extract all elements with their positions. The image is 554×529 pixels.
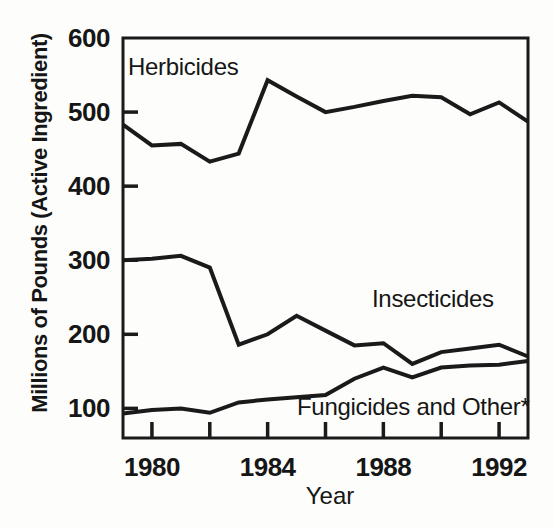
plot-border — [123, 38, 528, 438]
x-tick-label-1988: 1988 — [338, 454, 428, 480]
x-axis-ticks — [152, 422, 499, 438]
y-tick-label-500: 500 — [50, 99, 110, 125]
x-tick-label-1984: 1984 — [223, 454, 313, 480]
herbicides-line — [123, 80, 528, 162]
y-tick-label-100: 100 — [50, 395, 110, 421]
herbicides-series-label: Herbicides — [128, 54, 238, 80]
y-tick-label-600: 600 — [50, 25, 110, 51]
y-axis-title: Millions of Pounds (Active Ingredient) — [28, 23, 52, 423]
x-tick-label-1980: 1980 — [107, 454, 197, 480]
x-tick-label-1992: 1992 — [454, 454, 544, 480]
y-tick-label-400: 400 — [50, 173, 110, 199]
pesticide-usage-chart: Millions of Pounds (Active Ingredient) Y… — [0, 0, 554, 529]
fungicides-series-label: Fungicides and Other* — [297, 394, 530, 420]
y-tick-label-300: 300 — [50, 247, 110, 273]
x-axis-title: Year — [290, 482, 370, 510]
y-tick-label-200: 200 — [50, 321, 110, 347]
data-lines — [123, 80, 528, 413]
insecticides-series-label: Insecticides — [372, 286, 494, 312]
